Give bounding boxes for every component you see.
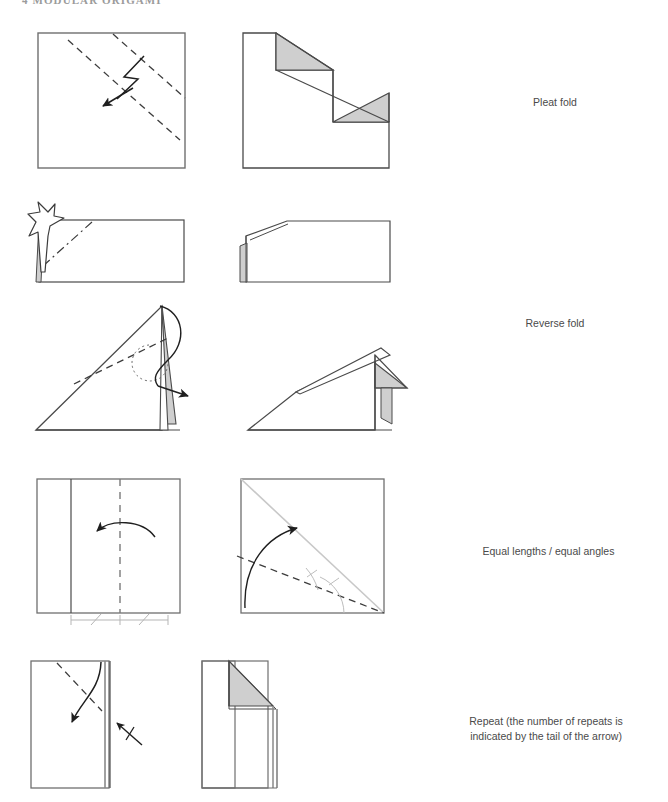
pleat-fold-after-diagram <box>243 33 389 168</box>
reverse-fold-triangle-after-diagram <box>248 348 407 430</box>
equal-length-measure-bars <box>71 614 168 625</box>
reverse-fold-triangle-before-diagram <box>36 306 188 430</box>
repeat-after-diagram <box>202 661 277 788</box>
reverse-fold-before-diagram <box>28 202 184 282</box>
caption-repeat: Repeat (the number of repeats is indicat… <box>430 714 662 744</box>
reverse-fold-after-diagram <box>240 221 390 282</box>
equal-lengths-before-diagram <box>37 479 180 625</box>
repeat-before-diagram <box>31 661 142 788</box>
caption-equal-lengths-angles: Equal lengths / equal angles <box>441 544 656 559</box>
caption-pleat-fold: Pleat fold <box>455 95 655 110</box>
diagram-layer <box>0 0 668 802</box>
equal-angles-after-diagram <box>237 479 384 613</box>
pleat-fold-before-diagram <box>38 33 185 168</box>
caption-reverse-fold: Reverse fold <box>455 316 655 331</box>
origami-symbols-page: 4 MODULAR ORIGAMI <box>0 0 668 802</box>
